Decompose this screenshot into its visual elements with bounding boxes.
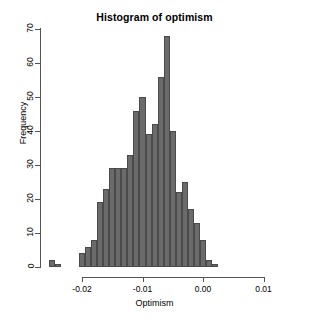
y-axis-label: Frequency: [18, 102, 28, 145]
y-axis-tick-text: 10: [24, 227, 34, 236]
x-axis-tick: [264, 277, 265, 282]
histogram-bars: [41, 26, 303, 267]
page-title: Histogram of optimism: [0, 11, 309, 23]
y-axis-tick-text: 20: [24, 193, 34, 202]
y-axis-tick-label: 30: [0, 159, 34, 169]
y-axis-tick-label: 40: [0, 125, 34, 135]
y-axis-tick-label: 0: [0, 261, 34, 271]
y-axis-tick-label: 20: [0, 193, 34, 203]
y-axis-tick-text: 50: [24, 91, 34, 100]
y-axis-tick-text: 70: [24, 23, 34, 32]
x-axis-tick: [143, 277, 144, 282]
y-axis-tick-label: 60: [0, 57, 34, 67]
y-axis-tick-label: 70: [0, 23, 34, 33]
y-axis-tick-label: 10: [0, 227, 34, 237]
y-axis-tick: [35, 165, 40, 166]
y-axis-tick: [35, 199, 40, 200]
x-axis-line: [82, 277, 264, 278]
x-axis-tick: [203, 277, 204, 282]
y-axis-tick-text: 30: [24, 159, 34, 168]
y-axis-tick-text: 0: [27, 264, 37, 269]
histogram-bar: [212, 264, 218, 267]
histogram-bar: [55, 264, 61, 267]
y-axis-tick: [35, 97, 40, 98]
y-axis-tick: [35, 63, 40, 64]
x-axis-tick: [82, 277, 83, 282]
plot-area: [41, 26, 303, 267]
x-axis-tick-label: 0.01: [244, 284, 284, 294]
x-axis-tick-label: -0.02: [62, 284, 102, 294]
y-axis-tick: [35, 29, 40, 30]
y-axis-tick: [35, 131, 40, 132]
x-axis-tick-label: -0.01: [123, 284, 163, 294]
y-axis-tick-label: 50: [0, 91, 34, 101]
y-axis-tick: [35, 233, 40, 234]
histogram-figure: Histogram of optimism 010203040506070 Fr…: [0, 0, 309, 320]
y-axis-tick-text: 60: [24, 57, 34, 66]
x-axis-label: Optimism: [0, 298, 309, 308]
x-axis-tick-label: 0.00: [183, 284, 223, 294]
